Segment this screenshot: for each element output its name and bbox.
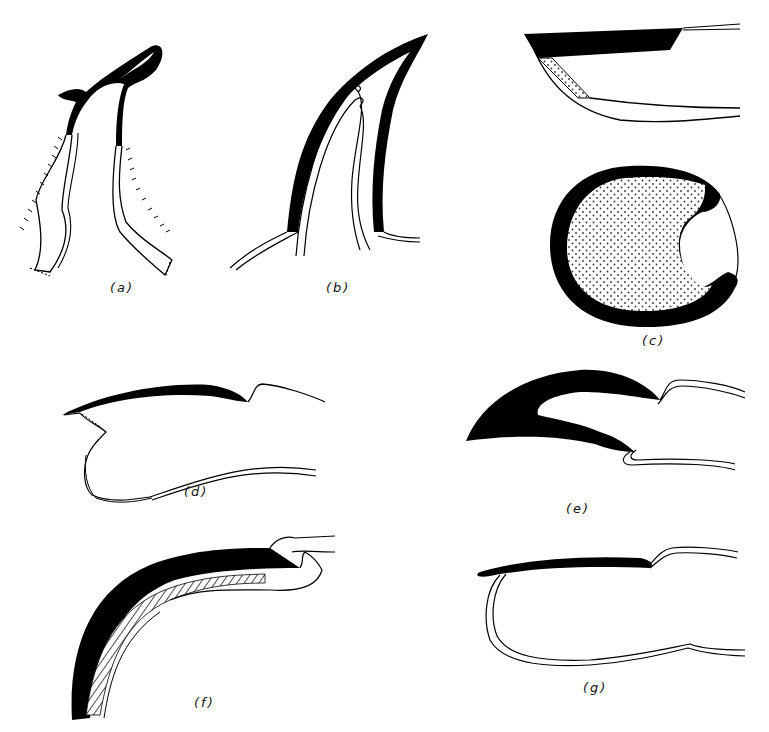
panel-f-drawing xyxy=(72,536,335,720)
panel-b-label: (b) xyxy=(326,280,350,295)
panel-a-label: (a) xyxy=(110,280,134,295)
panel-d-label: (d) xyxy=(184,484,208,499)
panel-c-longitudinal-drawing xyxy=(524,24,740,122)
panel-c-cross-section-drawing xyxy=(550,166,738,327)
panel-a-drawing xyxy=(20,45,172,276)
figure-drawings xyxy=(0,0,769,732)
panel-b-drawing xyxy=(230,34,428,270)
panel-e-drawing xyxy=(466,370,745,470)
panel-c-label: (c) xyxy=(642,333,665,348)
panel-f-label: (f) xyxy=(194,695,215,710)
panel-g-label: (g) xyxy=(583,680,607,695)
panel-g-drawing xyxy=(477,547,745,666)
claw-section-figure: (a) (b) (c) (d) (e) (f) (g) xyxy=(0,0,769,732)
panel-e-label: (e) xyxy=(566,501,590,516)
